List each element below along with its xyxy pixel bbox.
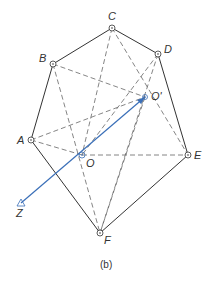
label-a: A — [16, 134, 24, 146]
dashed-line-b-f — [53, 64, 100, 233]
label-e: E — [194, 149, 202, 161]
figure-caption: (b) — [100, 259, 112, 270]
label-d: D — [164, 43, 172, 55]
label-f: F — [104, 234, 112, 246]
label-c: C — [108, 10, 116, 22]
polygon-outline — [31, 28, 188, 233]
dashed-line-c-e — [112, 28, 188, 155]
label-b: B — [39, 52, 46, 64]
dashed-line-a-oprime — [31, 97, 145, 140]
z-axis — [17, 95, 148, 207]
polyhedron-diagram: C B D O' A O E F Z (b) — [0, 0, 213, 286]
dashed-line-b-oprime — [53, 64, 145, 97]
label-o: O — [86, 157, 95, 169]
dashed-lines — [31, 28, 188, 233]
label-z: Z — [15, 207, 24, 219]
dashed-line-d-o — [82, 54, 158, 155]
label-oprime: O' — [151, 90, 163, 102]
dashed-line-c-o — [82, 28, 112, 155]
